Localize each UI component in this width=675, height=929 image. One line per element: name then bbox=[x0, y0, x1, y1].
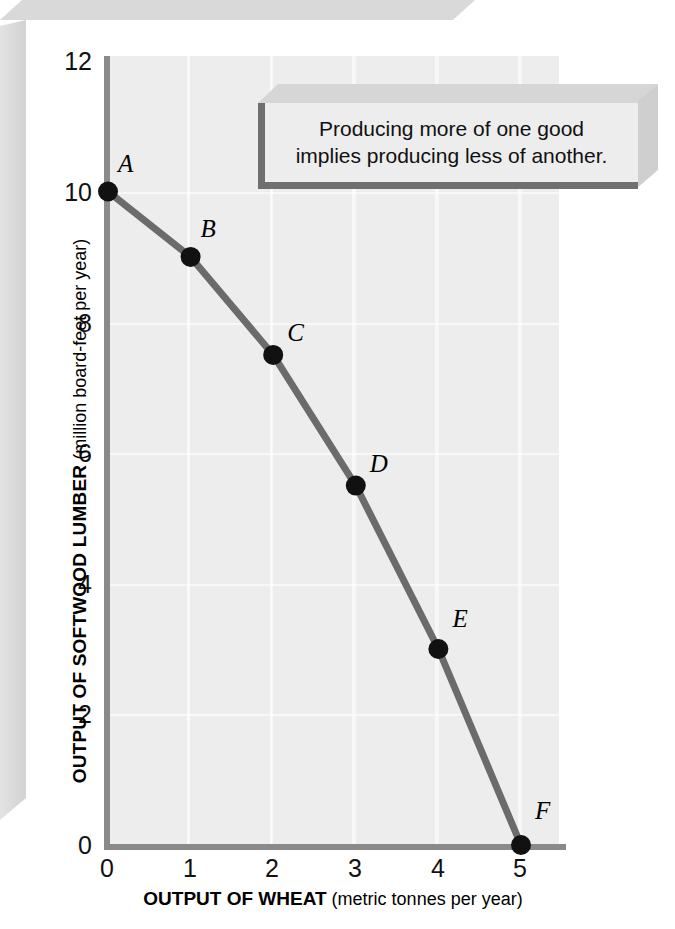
data-point-marker-f bbox=[511, 835, 531, 855]
callout-text: Producing more of one good implies produ… bbox=[286, 116, 618, 170]
data-point-label-d: D bbox=[370, 450, 388, 478]
data-point-label-c: C bbox=[287, 319, 304, 347]
callout-box: Producing more of one good implies produ… bbox=[258, 103, 638, 189]
data-point-marker-d bbox=[346, 476, 366, 496]
data-point-marker-c bbox=[263, 345, 283, 365]
callout-line-2: implies producing less of another. bbox=[296, 144, 608, 167]
data-point-marker-e bbox=[428, 639, 448, 659]
data-point-label-f: F bbox=[535, 797, 550, 825]
chart-figure: 0 2 4 6 8 10 12 0 1 2 3 4 5 OUTPUT OF SO… bbox=[0, 0, 675, 929]
data-point-marker-a bbox=[98, 182, 118, 202]
data-point-label-b: B bbox=[201, 215, 216, 243]
callout-top-bevel bbox=[258, 84, 658, 103]
data-point-label-a: A bbox=[118, 150, 133, 178]
data-point-marker-b bbox=[181, 247, 201, 267]
callout-line-1: Producing more of one good bbox=[319, 117, 584, 140]
data-point-label-e: E bbox=[452, 605, 467, 633]
